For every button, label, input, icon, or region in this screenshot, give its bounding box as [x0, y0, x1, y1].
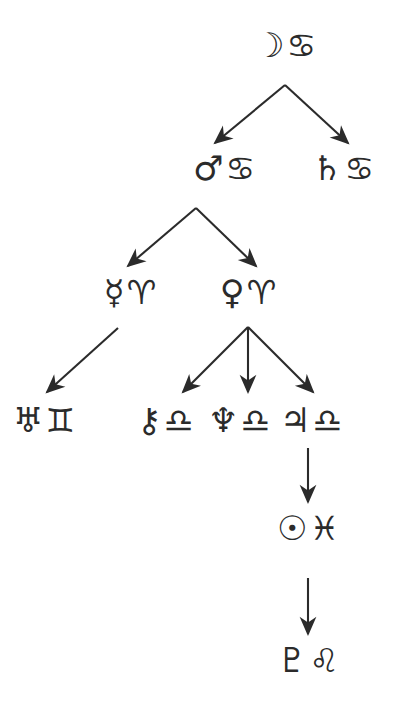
node-moon: ☽♋	[254, 28, 316, 62]
saturn-icon: ♄	[312, 151, 342, 185]
node-mars: ♂♋	[193, 151, 255, 185]
moon-icon: ☽	[254, 28, 284, 62]
gemini-icon: ♊	[45, 404, 75, 437]
arrow-venus-to-chiron	[183, 327, 248, 392]
node-sun: ☉♓	[277, 511, 339, 545]
arrow-moon-to-mars	[215, 85, 285, 143]
arrow-mars-to-mercury	[128, 208, 196, 266]
jupiter-icon: ♃	[280, 403, 310, 437]
arrow-mars-to-venus	[196, 208, 256, 266]
node-mercury: ☿♈	[104, 275, 156, 309]
sun-icon: ☉	[277, 511, 307, 545]
chiron-icon: ⚷	[137, 403, 162, 437]
aries-icon: ♈	[127, 276, 157, 309]
venus-icon: ♀	[220, 275, 245, 309]
node-pluto: ♇♌	[277, 643, 339, 677]
libra-icon: ♎	[240, 404, 270, 437]
cancer-icon: ♋	[225, 152, 255, 185]
libra-icon: ♎	[164, 404, 194, 437]
node-venus: ♀♈	[220, 275, 277, 309]
pisces-icon: ♓	[309, 512, 339, 545]
arrow-mercury-to-uranus	[47, 328, 118, 392]
node-neptune: ♆♎	[208, 403, 270, 437]
pluto-icon: ♇	[277, 643, 307, 677]
node-chiron: ⚷♎	[137, 403, 194, 437]
node-uranus: ♅♊	[13, 403, 75, 437]
uranus-icon: ♅	[13, 403, 43, 437]
mercury-icon: ☿	[104, 275, 125, 309]
node-jupiter: ♃♎	[280, 403, 342, 437]
mars-icon: ♂	[193, 151, 223, 185]
libra-icon: ♎	[312, 404, 342, 437]
cancer-icon: ♋	[286, 29, 316, 62]
leo-icon: ♌	[309, 644, 339, 677]
cancer-icon: ♋	[344, 152, 374, 185]
aries-icon: ♈	[247, 276, 277, 309]
dispositor-tree-diagram: ☽♋♂♋♄♋☿♈♀♈♅♊⚷♎♆♎♃♎☉♓♇♌	[0, 0, 393, 715]
neptune-icon: ♆	[208, 403, 238, 437]
node-saturn: ♄♋	[312, 151, 374, 185]
arrow-venus-to-jupiter	[248, 327, 313, 392]
edge-layer	[0, 0, 393, 715]
arrow-moon-to-saturn	[285, 85, 348, 143]
